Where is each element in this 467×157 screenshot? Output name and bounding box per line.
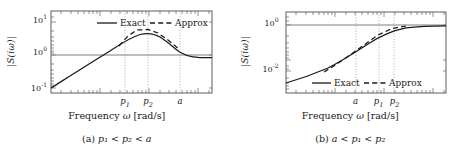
panel-b-curve-approx [324, 26, 406, 72]
panel-b-x-axis-title: Frequency ω [rad/s] [234, 110, 467, 121]
panel-a-svg: Exact Approx [0, 0, 234, 100]
panel-a-curve-exact [51, 34, 212, 88]
panel-a: |S(iω)| 101 100 10-1 [0, 0, 234, 157]
legend-label-approx: Approx [388, 78, 422, 88]
x-tick-p2: p2 [390, 96, 400, 106]
panel-b-svg: Exact Approx [234, 0, 467, 100]
x-tick-p1: p1 [374, 96, 384, 106]
legend-label-exact: Exact [334, 78, 360, 88]
caption-label: (b) [315, 133, 329, 144]
axis-title-unit: [rad/s] [130, 110, 165, 121]
caption-expression: p₁ < p₂ < a [98, 133, 151, 144]
caption-expression: a < p₁ < p₂ [332, 133, 385, 144]
panel-b-curve-exact [286, 26, 446, 83]
panel-b-legend: Exact Approx [312, 78, 422, 88]
panel-b-axis-frame [286, 12, 446, 93]
panel-b-x-tick-labels: a p1 p2 [234, 96, 467, 110]
panel-a-caption: (a) p₁ < p₂ < a [0, 133, 234, 144]
legend-label-exact: Exact [120, 18, 146, 28]
x-tick-p1: p1 [120, 96, 130, 106]
x-tick-p2: p2 [143, 96, 153, 106]
axis-title-prefix: Frequency [68, 110, 122, 121]
axis-title-omega: ω [356, 110, 364, 121]
panel-a-x-axis-title: Frequency ω [rad/s] [0, 110, 234, 121]
caption-label: (a) [82, 133, 95, 144]
panel-b-caption: (b) a < p₁ < p₂ [234, 133, 467, 144]
x-tick-a: a [353, 96, 358, 106]
axis-title-unit: [rad/s] [364, 110, 399, 121]
panel-b-y-minor-ticks [286, 17, 446, 89]
panel-a-legend: Exact Approx [97, 18, 208, 28]
panel-a-plot-area: Exact Approx [0, 0, 234, 100]
panel-b: |S(iω)| 100 10-2 [234, 0, 467, 157]
panel-b-plot-area: Exact Approx [234, 0, 467, 100]
x-tick-a: a [177, 96, 182, 106]
panel-a-x-tick-labels: p1 p2 a [0, 96, 234, 110]
legend-label-approx: Approx [174, 18, 208, 28]
figure-row: |S(iω)| 101 100 10-1 [0, 0, 467, 157]
axis-title-prefix: Frequency [302, 110, 356, 121]
